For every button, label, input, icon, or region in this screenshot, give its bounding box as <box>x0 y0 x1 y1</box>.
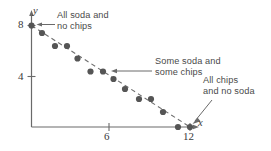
data-point <box>136 96 142 102</box>
annotation-all-chips-no-soda: All chips and no soda <box>203 75 255 97</box>
y-tick-label-4: 4 <box>18 70 24 82</box>
x-tick-label-12: 12 <box>183 130 194 142</box>
data-point <box>160 109 166 115</box>
data-point <box>87 68 93 74</box>
chart-figure: y x 8 4 6 12 All soda and no chips Some … <box>0 0 271 151</box>
annotation-arrow-some-soda <box>111 69 152 73</box>
annotation-line-2: and no soda <box>203 86 255 97</box>
data-point <box>64 43 70 49</box>
annotation-line-1: All chips <box>203 75 255 86</box>
annotation-line-2: no chips <box>57 21 109 32</box>
data-point <box>28 22 34 28</box>
data-point <box>122 86 128 92</box>
annotation-arrow-all-soda <box>37 22 56 26</box>
data-point <box>110 76 116 82</box>
x-tick-label-6: 6 <box>104 130 110 142</box>
data-point <box>74 55 80 61</box>
annotation-all-soda-no-chips: All soda and no chips <box>57 10 109 32</box>
data-point <box>148 96 154 102</box>
y-tick-label-8: 8 <box>18 18 24 30</box>
annotation-line-1: Some soda and <box>155 56 221 67</box>
data-point <box>52 43 58 49</box>
data-point <box>39 30 45 36</box>
y-axis-label: y <box>33 5 38 16</box>
x-axis-label: x <box>198 117 203 128</box>
data-point <box>100 68 106 74</box>
data-point <box>175 124 181 130</box>
annotation-line-1: All soda and <box>57 10 109 21</box>
